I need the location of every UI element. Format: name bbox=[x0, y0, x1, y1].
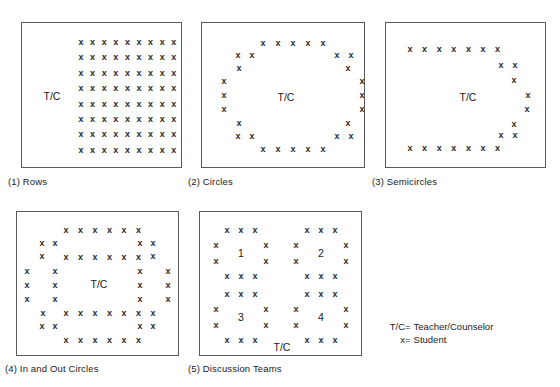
student-mark: x bbox=[171, 84, 176, 93]
student-mark: x bbox=[78, 130, 83, 139]
student-mark: x bbox=[107, 226, 112, 235]
student-mark: x bbox=[238, 290, 243, 299]
student-mark: x bbox=[165, 281, 170, 290]
student-mark: x bbox=[171, 130, 176, 139]
student-mark: x bbox=[304, 226, 309, 235]
student-mark: x bbox=[150, 239, 155, 248]
student-mark: x bbox=[125, 99, 130, 108]
student-mark: x bbox=[480, 45, 485, 54]
student-mark: x bbox=[121, 253, 126, 262]
student-mark: x bbox=[148, 53, 153, 62]
student-mark: x bbox=[160, 145, 165, 154]
student-mark: x bbox=[171, 115, 176, 124]
student-mark: x bbox=[78, 84, 83, 93]
student-mark: x bbox=[125, 145, 130, 154]
panel-semicircles-content: T/C xxxxxxxxxxxxxxxxxxxxxx bbox=[386, 23, 545, 167]
group-number-2: 2 bbox=[318, 248, 324, 259]
student-mark: x bbox=[512, 61, 517, 70]
student-mark: x bbox=[263, 321, 268, 330]
student-mark: x bbox=[171, 53, 176, 62]
student-mark: x bbox=[275, 145, 280, 154]
student-mark: x bbox=[90, 99, 95, 108]
student-mark: x bbox=[102, 115, 107, 124]
student-mark: x bbox=[102, 130, 107, 139]
caption-in-and-out-circles: (4) In and Out Circles bbox=[5, 363, 99, 374]
student-mark: x bbox=[107, 253, 112, 262]
student-mark: x bbox=[165, 295, 170, 304]
student-mark: x bbox=[102, 84, 107, 93]
student-mark: x bbox=[480, 144, 485, 153]
student-mark: x bbox=[437, 45, 442, 54]
student-mark: x bbox=[263, 257, 268, 266]
student-mark: x bbox=[160, 130, 165, 139]
student-mark: x bbox=[137, 295, 142, 304]
student-mark: x bbox=[263, 241, 268, 250]
student-mark: x bbox=[422, 144, 427, 153]
student-mark: x bbox=[213, 321, 218, 330]
student-mark: x bbox=[136, 309, 141, 318]
student-mark: x bbox=[24, 295, 29, 304]
student-mark: x bbox=[524, 105, 529, 114]
student-mark: x bbox=[78, 115, 83, 124]
teacher-label: T/C bbox=[278, 92, 295, 103]
student-mark: x bbox=[63, 309, 68, 318]
student-mark: x bbox=[171, 68, 176, 77]
student-mark: x bbox=[92, 253, 97, 262]
student-mark: x bbox=[63, 336, 68, 345]
student-mark: x bbox=[224, 226, 229, 235]
group-number-1: 1 bbox=[238, 248, 244, 259]
student-mark: x bbox=[113, 38, 118, 47]
panel-semicircles: T/C xxxxxxxxxxxxxxxxxxxxxx bbox=[385, 22, 546, 168]
seating-arrangements-diagram: T/C xxxxxxxxxxxxxxxxxxxxxxxxxxxxxxxxxxxx… bbox=[0, 0, 560, 387]
student-mark: x bbox=[125, 53, 130, 62]
student-mark: x bbox=[498, 131, 503, 140]
student-mark: x bbox=[113, 53, 118, 62]
student-mark: x bbox=[78, 226, 83, 235]
teacher-label: T/C bbox=[91, 279, 108, 290]
group-number-4: 4 bbox=[318, 312, 324, 323]
student-mark: x bbox=[171, 145, 176, 154]
student-mark: x bbox=[320, 39, 325, 48]
panel-rows-content: T/C xxxxxxxxxxxxxxxxxxxxxxxxxxxxxxxxxxxx… bbox=[22, 23, 181, 167]
student-mark: x bbox=[136, 99, 141, 108]
student-mark: x bbox=[136, 84, 141, 93]
student-mark: x bbox=[63, 226, 68, 235]
student-mark: x bbox=[260, 39, 265, 48]
student-mark: x bbox=[213, 257, 218, 266]
student-mark: x bbox=[348, 51, 353, 60]
student-mark: x bbox=[121, 336, 126, 345]
student-mark: x bbox=[511, 76, 516, 85]
student-mark: x bbox=[102, 38, 107, 47]
student-mark: x bbox=[90, 130, 95, 139]
student-mark: x bbox=[498, 61, 503, 70]
student-mark: x bbox=[407, 45, 412, 54]
student-mark: x bbox=[136, 253, 141, 262]
student-mark: x bbox=[249, 132, 254, 141]
student-mark: x bbox=[343, 321, 348, 330]
panel-rows: T/C xxxxxxxxxxxxxxxxxxxxxxxxxxxxxxxxxxxx… bbox=[21, 22, 182, 168]
student-mark: x bbox=[221, 105, 226, 114]
legend: T/C=Teacher/Counselor x=Student bbox=[379, 320, 493, 346]
student-mark: x bbox=[422, 45, 427, 54]
student-mark: x bbox=[293, 257, 298, 266]
student-mark: x bbox=[78, 99, 83, 108]
student-mark: x bbox=[137, 239, 142, 248]
student-mark: x bbox=[113, 145, 118, 154]
student-mark: x bbox=[213, 305, 218, 314]
student-mark: x bbox=[318, 290, 323, 299]
student-mark: x bbox=[90, 145, 95, 154]
student-mark: x bbox=[136, 336, 141, 345]
student-mark: x bbox=[148, 145, 153, 154]
caption-semicircles: (3) Semicircles bbox=[372, 176, 437, 187]
student-mark: x bbox=[52, 267, 57, 276]
panel-circles: T/C xxxxxxxxxxxxxxxxxxxxxxxxxxxx bbox=[201, 22, 365, 168]
caption-rows: (1) Rows bbox=[8, 176, 47, 187]
student-mark: x bbox=[39, 252, 44, 261]
student-mark: x bbox=[318, 226, 323, 235]
student-mark: x bbox=[437, 144, 442, 153]
student-mark: x bbox=[113, 68, 118, 77]
student-mark: x bbox=[125, 38, 130, 47]
student-mark: x bbox=[525, 91, 530, 100]
teacher-label: T/C bbox=[274, 342, 291, 353]
student-mark: x bbox=[345, 64, 350, 73]
